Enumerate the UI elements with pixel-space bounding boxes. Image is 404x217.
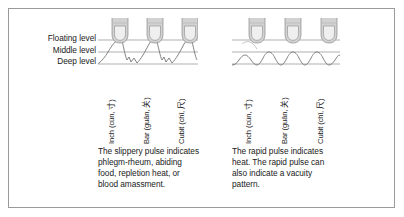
position-label-cubit: Cubit (chǐ, 尺) — [175, 99, 186, 144]
position-label-inch: Inch (cùn, 寸) — [105, 99, 116, 144]
rapid-position-labels: Inch (cùn, 寸) Bar (guān, 关) Cubit (chǐ, … — [232, 78, 340, 144]
fingertip-bar — [147, 18, 163, 43]
slippery-pulse-svg — [98, 18, 198, 74]
fingertip-inch — [249, 18, 265, 43]
pulse-diagram-figure: Floating level Middle level Deep level — [0, 0, 404, 217]
level-label-floating: Floating level — [18, 33, 96, 45]
rapid-pulse-svg — [232, 18, 340, 74]
slippery-position-labels: Inch (cùn, 寸) Bar (guān, 关) Cubit (chǐ, … — [98, 78, 198, 144]
fingertip-bar — [285, 18, 301, 43]
rapid-pulse-caption: The rapid pulse indicates heat. The rapi… — [232, 146, 336, 190]
rapid-waveform — [232, 52, 340, 65]
slippery-pulse-caption: The slippery pulse indicates phlegm-rheu… — [98, 146, 202, 190]
level-label-deep: Deep level — [18, 56, 96, 68]
position-label-bar: Bar (guān, 关) — [140, 97, 151, 144]
position-label-bar: Bar (guān, 关) — [278, 97, 289, 144]
fingertip-cubit — [182, 18, 198, 43]
level-lines — [98, 40, 198, 64]
level-labels: Floating level Middle level Deep level — [18, 33, 96, 68]
slippery-pulse-diagram: Floating level Middle level Deep level — [0, 0, 212, 217]
level-label-middle: Middle level — [18, 45, 96, 57]
position-label-inch: Inch (cùn, 寸) — [242, 99, 253, 144]
fingertip-cubit — [321, 18, 337, 43]
fingertip-inch — [112, 18, 128, 43]
rapid-pulse-graph — [232, 18, 340, 74]
rapid-pulse-diagram: Inch (cùn, 寸) Bar (guān, 关) Cubit (chǐ, … — [212, 0, 404, 217]
position-label-cubit: Cubit (chǐ, 尺) — [314, 99, 325, 144]
slippery-pulse-graph — [98, 18, 198, 74]
